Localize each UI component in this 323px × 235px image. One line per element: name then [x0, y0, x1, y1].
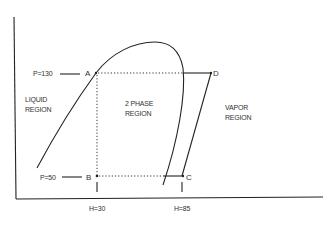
saturation-dome — [37, 42, 184, 185]
point-b-label: B — [86, 173, 91, 182]
two-phase-region-label-line2: REGION — [125, 110, 152, 117]
liquid-region-label-line2: REGION — [25, 106, 52, 113]
enthalpy-label-h85: H=85 — [174, 205, 190, 212]
vapor-region-label-line2: REGION — [225, 114, 252, 121]
pressure-label-low: P=50 — [40, 174, 56, 181]
point-c-label: C — [186, 173, 192, 182]
enthalpy-label-h30: H=30 — [89, 205, 105, 212]
vapor-region-label-line1: VAPOR — [225, 104, 248, 111]
point-a-marker — [95, 72, 97, 74]
point-b-marker — [96, 175, 99, 178]
y-axis — [14, 17, 16, 199]
point-d-marker — [210, 72, 212, 74]
x-axis — [16, 197, 323, 199]
two-phase-region-label-line1: 2 PHASE — [125, 100, 154, 107]
point-c-marker — [182, 175, 184, 177]
point-a-label: A — [85, 69, 91, 78]
ph-diagram: A B C D P=130 P=50 H=30 H=85 LIQUID REGI… — [0, 0, 323, 235]
pressure-label-high: P=130 — [33, 70, 53, 77]
line-d-to-c — [182, 73, 211, 176]
point-d-label: D — [213, 69, 219, 78]
liquid-region-label-line1: LIQUID — [25, 96, 47, 104]
